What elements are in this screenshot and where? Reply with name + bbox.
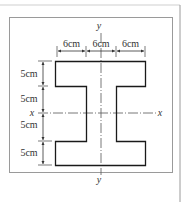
y-axis-label-top: y: [96, 20, 102, 31]
x-axis-label-left: x: [29, 107, 35, 118]
left-dim-label-2: 5cm: [20, 93, 37, 104]
y-axis-label-bottom: y: [96, 174, 102, 185]
i-beam-shape: [56, 62, 146, 166]
left-dim-label-3: 5cm: [20, 119, 37, 130]
i-beam-diagram: 6cm 6cm 6cm 5cm 5cm 5cm 5cm y y x x: [0, 0, 183, 202]
left-dim-label-1: 5cm: [20, 68, 37, 79]
left-dim-label-4: 5cm: [20, 147, 37, 158]
top-dim-label-1: 6cm: [63, 38, 80, 49]
top-dim-label-2: 6cm: [92, 38, 109, 49]
top-dim-label-3: 6cm: [122, 38, 139, 49]
x-axis-label-right: x: [157, 107, 163, 118]
